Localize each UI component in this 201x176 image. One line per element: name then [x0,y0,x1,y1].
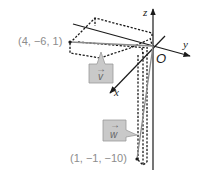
x-axis-label: x [113,86,119,98]
w-projection-box [138,48,147,165]
origin-label: O [156,51,166,66]
callout-w-label: w [110,129,118,140]
z-axis-label: z [142,6,148,18]
diagram-canvas: z y x O (4, −6, 1) (1, −1, −10) → v → w [0,0,201,176]
w-tip-dot [135,157,138,160]
callout-v: → v [89,52,113,83]
point-label-w: (1, −1, −10) [70,152,127,164]
vectors [68,40,153,160]
point-label-v: (4, −6, 1) [18,35,62,47]
axes [73,9,190,170]
y-axis-label: y [182,38,188,50]
callout-w: → w [103,119,137,141]
v-tip-dot [68,40,71,43]
y-axis [73,24,190,56]
v-projection-box [70,18,152,58]
